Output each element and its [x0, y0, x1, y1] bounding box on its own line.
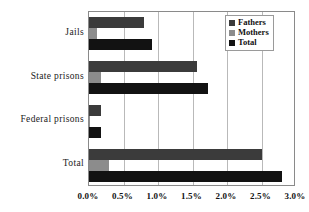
bar-federal-prisons-mothers — [89, 116, 90, 127]
y-axis-label-jails: Jails — [0, 27, 84, 37]
legend-label: Total — [238, 38, 257, 47]
legend-item-total[interactable]: Total — [229, 38, 269, 47]
legend-label: Fathers — [238, 18, 266, 27]
bar-jails-total — [89, 39, 152, 50]
bar-state-prisons-fathers — [89, 61, 197, 72]
bar-total-total — [89, 171, 282, 182]
legend: FathersMothersTotal — [225, 15, 274, 51]
bar-federal-prisons-fathers — [89, 105, 101, 116]
bar-chart: JailsState prisonsFederal prisonsTotal 0… — [0, 0, 309, 212]
y-axis-label-total: Total — [0, 158, 84, 168]
legend-item-mothers[interactable]: Mothers — [229, 28, 269, 37]
legend-swatch-mothers-icon — [229, 30, 235, 36]
bar-state-prisons-mothers — [89, 72, 101, 83]
bar-jails-fathers — [89, 17, 144, 28]
bar-jails-mothers — [89, 28, 97, 39]
x-axis-tick-30: 3.0% — [273, 191, 309, 201]
bar-total-fathers — [89, 149, 262, 160]
bar-state-prisons-total — [89, 83, 208, 94]
legend-label: Mothers — [238, 28, 269, 37]
legend-swatch-fathers-icon — [229, 20, 235, 26]
y-axis-label-state-prisons: State prisons — [0, 71, 84, 81]
bar-total-mothers — [89, 160, 109, 171]
y-axis-label-federal-prisons: Federal prisons — [0, 114, 84, 124]
legend-swatch-total-icon — [229, 40, 235, 46]
legend-item-fathers[interactable]: Fathers — [229, 18, 269, 27]
bar-federal-prisons-total — [89, 127, 101, 138]
